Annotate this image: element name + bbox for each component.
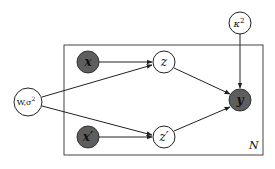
- edge-zprime-to-y: [174, 107, 230, 131]
- node-x: x: [77, 51, 99, 73]
- graphical-model-diagram: N x x′ z z′ y W,σ2 κ2: [0, 0, 275, 169]
- node-z-prime: z′: [153, 126, 175, 148]
- edge-wsigma-to-z: [42, 65, 152, 97]
- node-y-label: y: [236, 93, 245, 107]
- node-x-prime-label: x′: [82, 130, 94, 144]
- node-z-prime-label: z′: [158, 130, 168, 144]
- node-z-label: z: [160, 55, 168, 69]
- node-x-prime: x′: [77, 126, 99, 148]
- node-kappa: κ2: [229, 12, 251, 34]
- edge-z-to-y: [174, 68, 230, 94]
- node-w-sigma: W,σ2: [14, 88, 42, 116]
- node-y: y: [229, 89, 251, 111]
- node-z: z: [153, 51, 175, 73]
- node-x-label: x: [83, 55, 92, 69]
- plate-label: N: [248, 139, 259, 152]
